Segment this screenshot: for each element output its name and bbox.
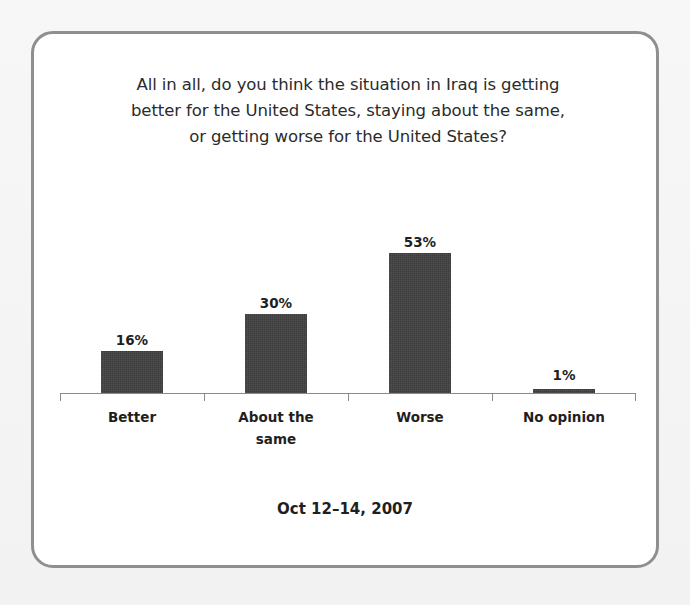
bar-slot-worse: 53%	[348, 184, 492, 393]
x-label-worse: Worse	[348, 406, 492, 428]
bar-value-about-the-same: 30%	[260, 295, 292, 311]
x-axis-labels: Better About the same Worse No opinion	[60, 406, 636, 466]
plot-area: 16% 30% 53% 1%	[60, 184, 636, 394]
chart-title-line-1: All in all, do you think the situation i…	[86, 72, 610, 98]
bar-slot-better: 16%	[60, 184, 204, 393]
x-label-about-the-same-line-1: About the	[204, 406, 348, 428]
bar-slot-no-opinion: 1%	[492, 184, 636, 393]
bar-value-worse: 53%	[404, 234, 436, 250]
chart-title: All in all, do you think the situation i…	[86, 72, 610, 150]
x-label-better: Better	[60, 406, 204, 428]
x-label-no-opinion: No opinion	[492, 406, 636, 428]
bar-better[interactable]	[101, 351, 163, 393]
survey-date-footnote: Oct 12–14, 2007	[34, 500, 656, 518]
chart-page: All in all, do you think the situation i…	[0, 0, 690, 605]
x-label-no-opinion-line-1: No opinion	[492, 406, 636, 428]
x-axis-tick-3	[492, 394, 493, 401]
x-label-about-the-same-line-2: same	[204, 428, 348, 450]
bar-series: 16% 30% 53% 1%	[60, 184, 636, 393]
x-axis-tick-2	[348, 394, 349, 401]
x-axis-tick-1	[204, 394, 205, 401]
chart-title-line-3: or getting worse for the United States?	[86, 124, 610, 150]
x-axis-tick-start	[60, 394, 61, 401]
x-axis-tick-end	[635, 394, 636, 401]
x-label-worse-line-1: Worse	[348, 406, 492, 428]
x-label-better-line-1: Better	[60, 406, 204, 428]
bar-about-the-same[interactable]	[245, 314, 307, 393]
bar-value-better: 16%	[116, 332, 148, 348]
bar-slot-about-the-same: 30%	[204, 184, 348, 393]
bar-value-no-opinion: 1%	[553, 367, 576, 383]
chart-panel: All in all, do you think the situation i…	[31, 31, 659, 568]
x-label-about-the-same: About the same	[204, 406, 348, 450]
chart-title-line-2: better for the United States, staying ab…	[86, 98, 610, 124]
bar-worse[interactable]	[389, 253, 451, 393]
